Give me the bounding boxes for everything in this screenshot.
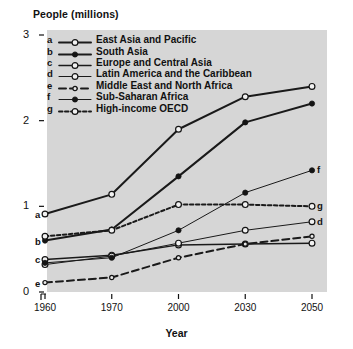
legend-label: Latin America and the Caribbean — [96, 68, 252, 79]
legend-item-e[interactable]: eMiddle East and North Africa — [47, 80, 252, 91]
data-point-marker — [243, 120, 248, 125]
legend-key-letter: a — [47, 34, 58, 45]
series-letter-g: g — [317, 200, 323, 211]
data-point-marker — [309, 101, 314, 106]
legend-line-sample — [58, 68, 92, 79]
data-point-marker — [309, 203, 315, 209]
legend-line-sample — [58, 57, 92, 68]
legend-line-sample — [58, 80, 92, 91]
legend-key-letter: c — [47, 57, 58, 68]
data-point-marker — [176, 126, 182, 132]
data-point-marker — [110, 275, 114, 279]
legend-label: Middle East and North Africa — [96, 80, 232, 91]
legend-line-sample — [58, 46, 92, 57]
data-point-marker — [176, 202, 182, 208]
series-g — [42, 202, 315, 239]
series-letter-d: d — [317, 216, 323, 227]
x-axis-title: Year — [0, 327, 353, 339]
data-point-marker — [43, 280, 47, 284]
x-tick-label: 2030 — [223, 302, 267, 313]
data-point-marker — [242, 202, 248, 208]
data-point-marker — [243, 190, 248, 195]
legend-item-d[interactable]: dLatin America and the Caribbean — [47, 68, 252, 79]
data-point-marker — [309, 84, 315, 90]
y-tick-label: 0 — [13, 285, 29, 297]
series-b — [42, 101, 314, 243]
data-point-marker — [310, 234, 314, 238]
legend-label: High-income OECD — [96, 103, 188, 114]
x-tick-label: 2050 — [290, 302, 334, 313]
legend-item-b[interactable]: bSouth Asia — [47, 45, 252, 56]
legend-item-a[interactable]: aEast Asia and Pacific — [47, 34, 252, 45]
series-letter-a: a — [35, 209, 40, 220]
legend-item-f[interactable]: fSub-Saharan Africa — [47, 91, 252, 102]
data-point-marker — [176, 240, 182, 246]
legend-line-sample — [58, 34, 92, 45]
legend-key-letter: g — [47, 103, 58, 114]
series-line — [45, 170, 312, 263]
legend-line-sample — [58, 103, 92, 114]
legend-key-letter: d — [47, 68, 58, 79]
chart-figure: People (millions) 0123 19601970200020302… — [0, 0, 353, 349]
x-tick-label: 1970 — [90, 302, 134, 313]
data-point-marker — [42, 233, 48, 239]
x-tick-label: 1960 — [23, 302, 67, 313]
data-point-marker — [109, 255, 114, 260]
series-f — [42, 168, 314, 266]
data-point-marker — [309, 219, 315, 225]
legend: aEast Asia and PacificbSouth AsiacEurope… — [47, 34, 252, 114]
data-point-marker — [109, 191, 115, 197]
y-tick-label: 3 — [13, 28, 29, 40]
series-letter-b: b — [35, 236, 41, 247]
data-point-marker — [176, 256, 180, 260]
data-point-marker — [42, 260, 47, 265]
series-line — [45, 104, 312, 241]
data-point-marker — [176, 228, 181, 233]
legend-key-letter: e — [47, 80, 58, 91]
data-point-marker — [309, 240, 315, 246]
data-point-marker — [309, 168, 314, 173]
legend-label: East Asia and Pacific — [96, 34, 196, 45]
legend-line-sample — [58, 91, 92, 102]
legend-label: Sub-Saharan Africa — [96, 91, 188, 102]
series-letter-e: e — [35, 278, 40, 289]
legend-label: South Asia — [96, 46, 148, 57]
series-letter-f: f — [317, 164, 320, 175]
data-point-marker — [176, 174, 181, 179]
x-tick-label: 2000 — [157, 302, 201, 313]
data-point-marker — [109, 227, 115, 233]
y-tick-label: 2 — [13, 114, 29, 126]
data-point-marker — [42, 211, 48, 217]
y-tick-label: 1 — [13, 199, 29, 211]
data-point-marker — [242, 227, 248, 233]
series-letter-c: c — [35, 254, 40, 265]
data-point-marker — [243, 242, 247, 246]
legend-item-c[interactable]: cEurope and Central Asia — [47, 57, 252, 68]
legend-key-letter: b — [47, 46, 58, 57]
legend-label: Europe and Central Asia — [96, 57, 212, 68]
legend-item-g[interactable]: gHigh-income OECD — [47, 102, 252, 113]
legend-key-letter: f — [47, 91, 58, 102]
